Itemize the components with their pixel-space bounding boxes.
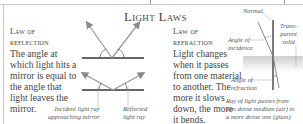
transparent-solid-label: Trans- parent solid (280, 22, 297, 46)
normal-label: Normal (243, 7, 263, 15)
caption-line: Incident light ray (48, 105, 100, 113)
incident-ray (84, 74, 113, 90)
incident-ray (258, 22, 273, 56)
label-line: Angle of (231, 76, 257, 84)
label-line: parent (280, 30, 297, 38)
caption-line: a more dense one (glass) (226, 113, 295, 121)
angle-arc (118, 49, 124, 58)
angle-arc (99, 83, 101, 90)
caption-line: light ray (123, 113, 147, 121)
incidence-arc (265, 36, 273, 38)
normal-leader (262, 12, 271, 20)
label-line: Trans- (280, 22, 297, 30)
incident-ray (88, 24, 112, 58)
reflection-diagram-shallow (82, 74, 144, 108)
caption-line: Ray of light passes from (226, 97, 295, 105)
angle-arc (100, 49, 106, 58)
angle-of-incidence-label: Angle of incidence (228, 36, 253, 52)
label-line: Angle of (228, 36, 253, 44)
label-line: solid (280, 38, 297, 46)
reflected-ray (113, 74, 142, 90)
reflected-caption: Reflected light ray (123, 105, 147, 121)
caption-line: less dense medium (air) to (226, 105, 295, 113)
angle-arc (125, 83, 127, 90)
label-line: incidence (228, 44, 253, 52)
incident-caption: Incident light ray approaching mirror (48, 105, 100, 121)
caption-line: Reflected (123, 105, 147, 113)
angle-of-refraction-label: Angle of refraction (231, 76, 257, 92)
reflection-diagram-steep (82, 24, 144, 58)
caption-line: approaching mirror (48, 113, 100, 121)
label-line: refraction (231, 84, 257, 92)
reflected-ray (112, 24, 138, 58)
refraction-caption: Ray of light passes from less dense medi… (226, 97, 295, 121)
